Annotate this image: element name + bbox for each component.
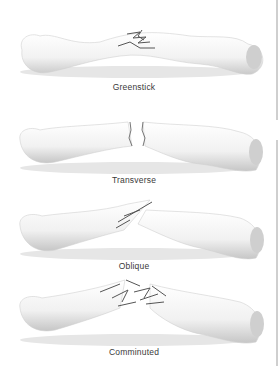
right-edge-bar-top [276,0,278,120]
panel-greenstick: Greenstick [0,2,268,93]
comminuted-bone-illustration [0,268,268,348]
label-greenstick: Greenstick [0,82,268,92]
panel-comminuted: Comminuted [0,268,268,359]
greenstick-bone-illustration [0,2,268,82]
panel-transverse: Transverse [0,96,268,187]
label-comminuted: Comminuted [0,347,268,357]
oblique-bone-illustration [0,182,268,262]
transverse-bone-illustration [0,96,268,176]
right-edge-bar-bottom [276,140,278,366]
panel-oblique: Oblique [0,182,268,273]
